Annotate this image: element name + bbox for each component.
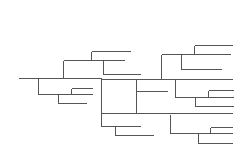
dendrogram [0,0,252,156]
